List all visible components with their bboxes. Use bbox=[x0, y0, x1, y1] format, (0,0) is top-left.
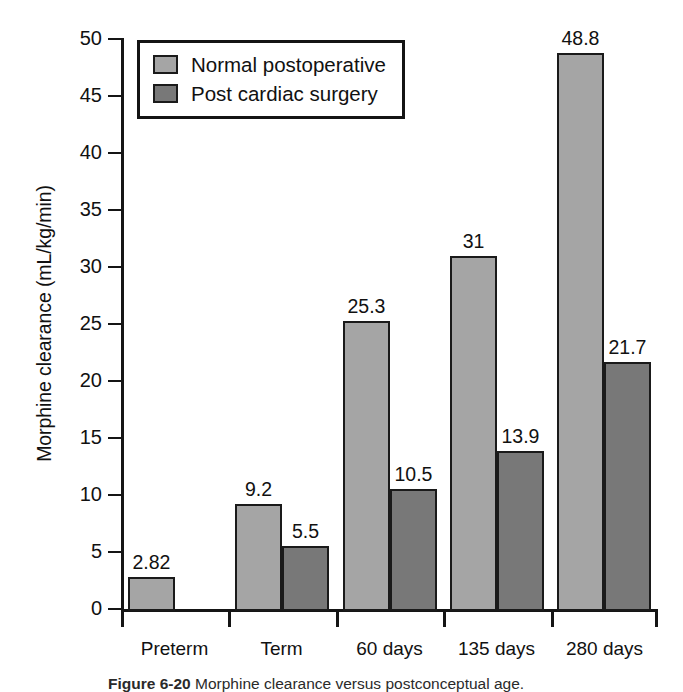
bar-value-label: 31 bbox=[436, 231, 511, 252]
bar[interactable] bbox=[604, 362, 651, 611]
x-tick-mark bbox=[336, 611, 339, 627]
bar-value-label: 48.8 bbox=[543, 28, 618, 49]
x-tick-mark bbox=[228, 611, 231, 627]
x-tick-mark bbox=[551, 611, 554, 627]
caption-text: Morphine clearance versus postconceptual… bbox=[195, 675, 524, 692]
y-tick-label: 40 bbox=[48, 142, 102, 162]
x-tick-label: 135 days bbox=[443, 638, 550, 660]
legend-label: Normal postoperative bbox=[191, 54, 386, 76]
x-tick-label: 280 days bbox=[551, 638, 658, 660]
y-tick-mark bbox=[108, 608, 122, 610]
bar-value-label: 25.3 bbox=[329, 296, 404, 317]
y-tick-label: 5 bbox=[48, 541, 102, 561]
x-tick-label: Term bbox=[228, 638, 335, 660]
y-tick-label: 10 bbox=[48, 484, 102, 504]
bar[interactable] bbox=[282, 546, 329, 611]
x-tick-mark bbox=[443, 611, 446, 627]
bar-value-label: 2.82 bbox=[114, 552, 189, 573]
y-tick-mark bbox=[108, 323, 122, 325]
bar[interactable] bbox=[128, 577, 175, 611]
y-tick-label: 50 bbox=[48, 28, 102, 48]
legend-swatch-icon bbox=[153, 55, 178, 74]
legend-swatch-icon bbox=[153, 84, 178, 103]
bar[interactable] bbox=[497, 451, 544, 611]
y-tick-label: 30 bbox=[48, 256, 102, 276]
caption-label: Figure 6-20 bbox=[108, 675, 191, 692]
figure-caption: Figure 6-20 Morphine clearance versus po… bbox=[108, 674, 683, 692]
y-tick-label: 15 bbox=[48, 427, 102, 447]
bar[interactable] bbox=[390, 489, 437, 611]
chart-legend: Normal postoperativePost cardiac surgery bbox=[137, 40, 405, 119]
y-tick-mark bbox=[108, 95, 122, 97]
y-tick-mark bbox=[108, 209, 122, 211]
x-tick-mark bbox=[121, 611, 124, 627]
y-tick-label: 25 bbox=[48, 313, 102, 333]
bar-value-label: 9.2 bbox=[221, 479, 296, 500]
y-tick-label: 35 bbox=[48, 199, 102, 219]
y-tick-label: 0 bbox=[48, 598, 102, 618]
y-axis-line bbox=[121, 38, 124, 612]
x-tick-label: Preterm bbox=[121, 638, 228, 660]
y-tick-mark bbox=[108, 152, 122, 154]
bar-value-label: 21.7 bbox=[590, 337, 665, 358]
y-tick-mark bbox=[108, 38, 122, 40]
y-tick-label: 45 bbox=[48, 85, 102, 105]
y-tick-mark bbox=[108, 266, 122, 268]
bar-value-label: 10.5 bbox=[376, 464, 451, 485]
x-tick-mark bbox=[655, 611, 658, 627]
bar-value-label: 5.5 bbox=[268, 521, 343, 542]
y-tick-mark bbox=[108, 437, 122, 439]
legend-item[interactable]: Post cardiac surgery bbox=[153, 79, 386, 108]
bar[interactable] bbox=[557, 53, 604, 611]
legend-item[interactable]: Normal postoperative bbox=[153, 50, 386, 79]
figure-container: Morphine clearance (mL/kg/min) 051015202… bbox=[0, 0, 683, 692]
y-tick-label: 20 bbox=[48, 370, 102, 390]
y-tick-mark bbox=[108, 494, 122, 496]
y-tick-mark bbox=[108, 380, 122, 382]
x-tick-label: 60 days bbox=[336, 638, 443, 660]
legend-label: Post cardiac surgery bbox=[191, 83, 378, 105]
bar-value-label: 13.9 bbox=[483, 426, 558, 447]
